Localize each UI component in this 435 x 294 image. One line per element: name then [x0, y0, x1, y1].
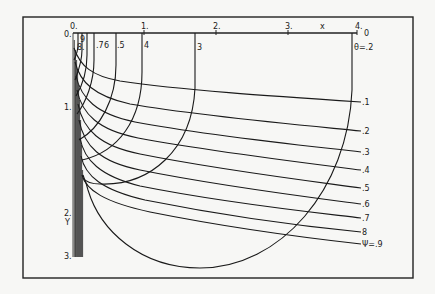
chart-canvas: 0. 1. 2. 3. x 4. 0 0. 1. 2. Y 3. 9 8. .7… — [0, 0, 435, 294]
psi-curve-9 — [82, 175, 361, 244]
x-tick-label-3: 3. — [285, 22, 293, 31]
psi-curves — [74, 48, 361, 244]
psi-label-9: Ψ=.9 — [362, 240, 383, 249]
x-tick-label-1: 1. — [141, 22, 149, 31]
theta-label-6: 6 — [104, 41, 109, 50]
x-tick-label-2: 2. — [213, 22, 221, 31]
x-axis-label: x — [320, 22, 325, 31]
theta-curve-4 — [82, 33, 142, 160]
theta-label-4: 4 — [144, 41, 149, 50]
y-tick-label-0: 0. — [64, 30, 72, 39]
psi-curve-4 — [77, 90, 361, 170]
theta-label-8: 8. — [77, 43, 85, 52]
y-tick-label-2: 2. — [64, 209, 72, 218]
theta-label-7: .7 — [96, 41, 104, 50]
psi-label-1: .1 — [362, 98, 370, 107]
psi-curve-1 — [74, 48, 361, 102]
y-tick-label-3: 3. — [64, 252, 72, 261]
psi-curve-6 — [79, 120, 361, 204]
psi-curve-2 — [75, 62, 361, 131]
psi-label-6: .6 — [362, 200, 370, 209]
y-tick-label-1: 1. — [64, 103, 72, 112]
psi-curve-8 — [81, 156, 361, 232]
corner-zero-label: 0 — [364, 29, 369, 38]
y-axis-label: Y — [64, 218, 70, 227]
theta-label-2: θ=.2 — [354, 43, 373, 52]
psi-label-2: .2 — [362, 127, 370, 136]
psi-curve-3 — [76, 76, 361, 152]
theta-label-3: 3 — [197, 43, 202, 52]
theta-label-5: .5 — [117, 41, 125, 50]
psi-label-3: .3 — [362, 148, 370, 157]
psi-label-4: .4 — [362, 166, 370, 175]
psi-label-5: .5 — [362, 184, 370, 193]
psi-label-8: 8 — [362, 228, 367, 237]
x-tick-label-4: 4. — [355, 22, 363, 31]
psi-label-7: .7 — [362, 214, 370, 223]
psi-curve-7 — [80, 138, 361, 218]
y-axis-stack — [73, 33, 83, 257]
